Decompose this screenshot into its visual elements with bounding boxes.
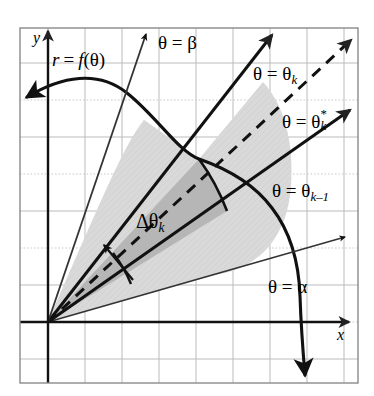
ray-label-theta-k-lhs: θ = — [253, 63, 278, 84]
curve-label-r: r — [52, 49, 59, 70]
ray-label-theta-k-star-rhs: θ — [311, 111, 320, 132]
ray-label-theta-k-subscript: k — [291, 72, 297, 87]
delta-theta-label: Δθk — [136, 211, 165, 234]
ray-label-beta-rhs: β — [187, 32, 197, 53]
curve-label-eq: = — [63, 49, 74, 70]
x-axis-label: x — [337, 327, 344, 343]
ray-label-alpha: θ = α — [268, 277, 307, 296]
ray-label-theta-k-star-subscript: k — [320, 120, 326, 132]
ray-label-theta-k-minus-1: θ = θk–1 — [272, 181, 329, 204]
ray-label-theta-k: θ = θk — [253, 64, 297, 87]
curve-label: r=f(θ) — [52, 50, 105, 69]
ray-label-alpha-lhs: θ = — [268, 276, 293, 297]
ray-label-theta-k-minus-1-subscript: k–1 — [310, 189, 329, 204]
curve-label-arg: (θ) — [83, 49, 105, 70]
delta-theta-label-text: Δθ — [136, 210, 158, 232]
ray-label-theta-k-star-lhs: θ = — [282, 111, 307, 132]
ray-label-beta: θ = β — [158, 33, 197, 52]
ray-label-theta-k-minus-1-lhs: θ = — [272, 180, 297, 201]
ray-label-alpha-rhs: α — [297, 276, 307, 297]
y-axis-label: y — [33, 30, 40, 46]
delta-theta-label-subscript: k — [158, 220, 164, 235]
polar-area-figure: y x r=f(θ) θ = β θ = θk θ = θ * k θ = θk… — [0, 0, 374, 396]
ray-label-beta-lhs: θ = — [158, 32, 183, 53]
ray-label-theta-k-star: θ = θ * k — [282, 108, 327, 132]
